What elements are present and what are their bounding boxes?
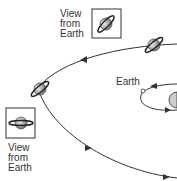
earth-arrow-bottom: [165, 107, 171, 113]
saturn-orbit-diagram: View from Earth Earth View from Earth: [0, 0, 177, 181]
saturn-orbit-path: [38, 44, 177, 178]
orbit-arrow-top: [80, 56, 87, 63]
earth-dot: [141, 89, 145, 93]
top-view-label: View from Earth: [60, 9, 84, 39]
orbit-arrow-bottom: [163, 174, 170, 180]
sun-icon: [169, 92, 177, 108]
saturn-icon-orbit-left: [28, 77, 53, 100]
label-line: Earth: [8, 163, 32, 173]
earth-label: Earth: [116, 77, 140, 87]
label-line: Earth: [60, 29, 84, 39]
orbit-arrow-mid: [85, 145, 92, 151]
bottom-view-label: View from Earth: [8, 143, 32, 173]
